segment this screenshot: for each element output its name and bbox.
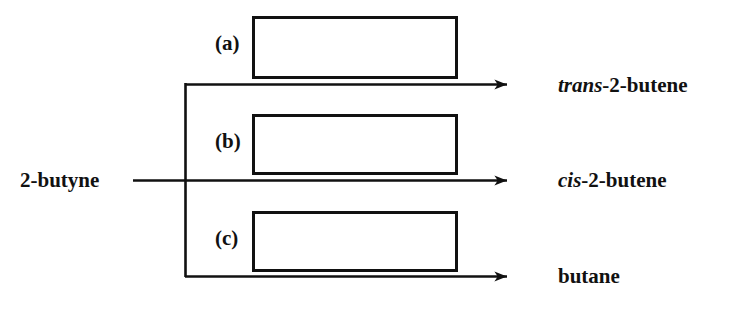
step-label-a: (a) xyxy=(215,33,240,54)
step-label-b: (b) xyxy=(215,131,241,152)
product-label-trans-2-butene: trans-2-butene xyxy=(558,75,688,96)
product-prefix-trans: trans xyxy=(558,73,602,97)
product-suffix-trans: -2-butene xyxy=(602,73,687,97)
product-suffix-cis: -2-butene xyxy=(581,168,666,192)
product-suffix-butane: butane xyxy=(558,264,620,288)
scheme-line-art xyxy=(0,0,737,312)
product-prefix-cis: cis xyxy=(558,168,581,192)
step-label-c: (c) xyxy=(215,228,238,249)
reagent-box-b xyxy=(254,116,457,174)
reagent-box-a xyxy=(254,18,457,78)
product-label-cis-2-butene: cis-2-butene xyxy=(558,170,667,191)
reactant-label-2-butyne: 2-butyne xyxy=(20,170,99,191)
reagent-box-c xyxy=(254,213,457,271)
product-label-butane: butane xyxy=(558,266,620,287)
reaction-scheme-figure: 2-butyne (a) (b) (c) trans-2-butene cis-… xyxy=(0,0,737,312)
